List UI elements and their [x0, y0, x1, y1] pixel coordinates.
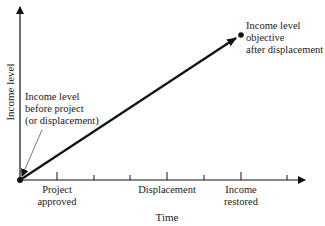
tick-label-line: Project: [27, 184, 87, 196]
end-annotation: Income level objective after displacemen…: [246, 20, 323, 56]
tick-label-line: Income: [211, 184, 271, 196]
tick-label-line: Displacement: [127, 184, 207, 196]
end-annotation-line: Income level: [246, 20, 323, 32]
y-axis-label: Income level: [4, 62, 16, 122]
tick-label-line: approved: [27, 196, 87, 208]
start-annotation-line: Income level: [25, 91, 99, 103]
start-annotation: Income level before project (or displace…: [25, 91, 99, 127]
start-annotation-line: before project: [25, 103, 99, 115]
tick-label-displacement: Displacement: [127, 184, 207, 196]
annotation-pointer: [22, 130, 42, 176]
objective-point: [238, 32, 244, 38]
tick-label-project-approved: Project approved: [27, 184, 87, 208]
tick-label-income-restored: Income restored: [211, 184, 271, 208]
origin-point: [17, 177, 23, 183]
end-annotation-line: after displacement: [246, 44, 323, 56]
x-axis-label: Time: [137, 211, 197, 223]
x-ticks: [57, 172, 287, 180]
start-annotation-line: (or displacement): [25, 115, 99, 127]
tick-label-line: restored: [211, 196, 271, 208]
end-annotation-line: objective: [246, 32, 323, 44]
